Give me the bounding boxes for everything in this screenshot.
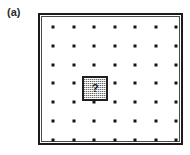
lattice-dot (72, 82, 75, 85)
lattice-dot (154, 44, 157, 47)
lattice-dot (72, 138, 75, 141)
lattice-dot (175, 120, 178, 123)
lattice-dot (154, 82, 157, 85)
lattice-dot (52, 82, 55, 85)
lattice-dot (134, 26, 137, 29)
lattice-dot-field: ? (40, 15, 181, 143)
lattice-dot (134, 44, 137, 47)
lattice-dot (154, 120, 157, 123)
lattice-dot (134, 138, 137, 141)
lattice-dot (113, 82, 116, 85)
lattice-dot (175, 26, 178, 29)
defect-site: ? (82, 76, 108, 101)
lattice-box: ? (38, 13, 183, 145)
lattice-dot (52, 26, 55, 29)
lattice-dot (93, 44, 96, 47)
lattice-dot (113, 26, 116, 29)
panel-label: (a) (7, 6, 20, 18)
lattice-dot (93, 120, 96, 123)
lattice-dot (93, 101, 96, 104)
lattice-dot (134, 63, 137, 66)
lattice-dot (52, 101, 55, 104)
lattice-dot (175, 44, 178, 47)
lattice-dot (175, 63, 178, 66)
lattice-dot (72, 120, 75, 123)
lattice-dot (154, 101, 157, 104)
lattice-dot (134, 120, 137, 123)
lattice-dot (72, 63, 75, 66)
lattice-dot (154, 26, 157, 29)
lattice-dot (52, 138, 55, 141)
lattice-dot (113, 44, 116, 47)
lattice-dot (175, 138, 178, 141)
lattice-dot (72, 101, 75, 104)
lattice-dot (134, 82, 137, 85)
lattice-dot (113, 101, 116, 104)
defect-label: ? (92, 83, 99, 94)
lattice-dot (52, 63, 55, 66)
lattice-dot (113, 63, 116, 66)
lattice-dot (52, 120, 55, 123)
lattice-dot (113, 120, 116, 123)
lattice-dot (72, 44, 75, 47)
lattice-dot (52, 44, 55, 47)
lattice-dot (72, 26, 75, 29)
lattice-dot (93, 63, 96, 66)
lattice-dot (93, 26, 96, 29)
lattice-dot (134, 101, 137, 104)
lattice-dot (154, 63, 157, 66)
lattice-dot (113, 138, 116, 141)
lattice-dot (154, 138, 157, 141)
figure-panel: (a) ? (0, 0, 190, 155)
lattice-dot (175, 82, 178, 85)
lattice-dot (93, 138, 96, 141)
lattice-dot (175, 101, 178, 104)
